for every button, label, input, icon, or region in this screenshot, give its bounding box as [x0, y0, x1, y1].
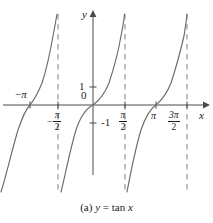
- fraction-denominator: 2: [170, 123, 177, 133]
- fraction-numerator: 3π: [168, 111, 180, 121]
- fraction-numerator: π: [54, 111, 61, 121]
- tangent-branch-left: [1, 14, 57, 192]
- minus-sign: −: [47, 116, 53, 127]
- plot-canvas: [0, 0, 213, 223]
- xtick-label-neg-pi: −plainπ: [15, 89, 27, 100]
- figure-caption: (a) y = tan x: [0, 201, 213, 213]
- xtick-label-pi: π: [151, 111, 156, 121]
- tangent-curve: [1, 14, 187, 192]
- x-axis-arrowhead: [203, 102, 210, 109]
- y-axis-arrowhead: [90, 10, 97, 17]
- fraction-numerator: π: [120, 111, 127, 121]
- xtick-label-pi-over-2: π 2: [119, 111, 127, 133]
- caption-part-y: y: [95, 201, 100, 213]
- tangent-function-figure: y x 1 -1 0 −plainπ − π 2 π 2 π 3π 2 (a) …: [0, 0, 213, 223]
- fraction-denominator: 2: [120, 123, 127, 133]
- caption-part-label: (a): [80, 201, 92, 213]
- ytick-label-neg-one: -1: [101, 117, 110, 128]
- caption-part-function: tan: [112, 201, 125, 213]
- fraction-denominator: 2: [54, 123, 61, 133]
- xtick-label-3pi-over-2: 3π 2: [168, 111, 180, 133]
- caption-part-variable: x: [128, 201, 133, 213]
- xtick-label-neg-pi-over-2: − π 2: [47, 111, 61, 133]
- caption-part-equals: =: [103, 201, 109, 213]
- asymptote-lines: [58, 14, 187, 191]
- tangent-branch-right: [127, 14, 187, 192]
- x-axis-label: x: [199, 110, 204, 121]
- origin-label: 0: [81, 90, 87, 101]
- y-axis-label: y: [82, 9, 87, 20]
